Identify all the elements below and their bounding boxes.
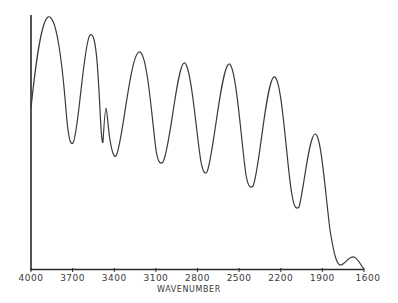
- x-tick-label: 1600: [356, 273, 381, 283]
- x-tick-label: 3400: [102, 273, 127, 283]
- x-axis-title: WAVENUMBER: [157, 285, 221, 294]
- spectrum-line: [31, 17, 364, 269]
- x-tick-label: 2800: [185, 273, 210, 283]
- x-tick-label: 1900: [310, 273, 335, 283]
- x-tick-label: 3700: [60, 273, 85, 283]
- spectrum-chart: [0, 0, 398, 303]
- x-tick-label: 3100: [143, 273, 168, 283]
- x-tick-label: 2200: [268, 273, 293, 283]
- x-tick-label: 2500: [227, 273, 252, 283]
- x-tick-label: 4000: [19, 273, 44, 283]
